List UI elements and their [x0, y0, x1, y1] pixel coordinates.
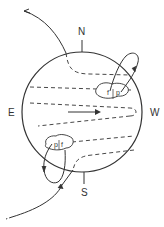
sunspot-south-f-label: f — [61, 141, 63, 148]
dashed-field-line-2 — [30, 103, 136, 116]
dashed-field-line-4 — [72, 136, 134, 142]
dashed-field-line-south — [73, 150, 134, 170]
dashed-field-line-3 — [38, 116, 130, 126]
outer-field-line-north — [24, 11, 66, 53]
west-label: W — [150, 107, 160, 118]
east-label: E — [8, 107, 15, 118]
north-label: N — [78, 26, 85, 37]
solar-magnetic-field-diagram: N S E W f p p f — [0, 0, 164, 227]
sunspot-south-p-label: p — [54, 141, 58, 149]
outer-field-line-south — [12, 170, 73, 217]
sunspot-north-p-label: p — [116, 89, 120, 97]
south-label: S — [81, 187, 88, 198]
sunspot-north-f-label: f — [107, 89, 109, 96]
